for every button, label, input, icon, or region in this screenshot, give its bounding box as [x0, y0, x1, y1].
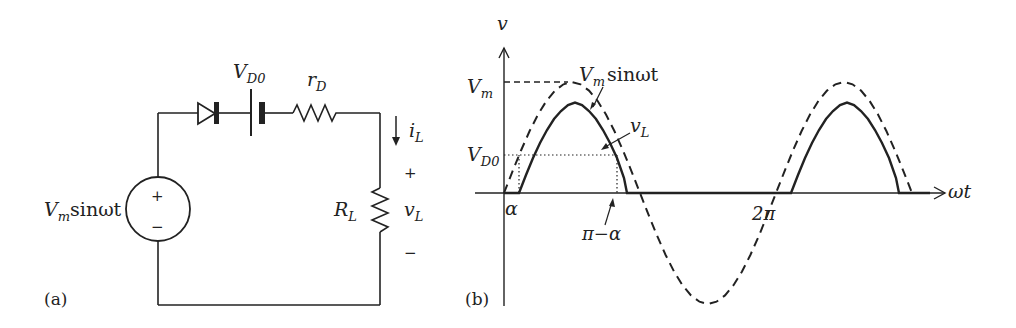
battery-icon — [251, 89, 265, 136]
resistor-rl-icon — [372, 188, 388, 232]
tick-pi-minus-alpha: π−α — [581, 223, 621, 244]
source-label: Vmsinωt — [44, 198, 122, 224]
rl-label: RL — [333, 198, 357, 224]
vl-curve — [504, 103, 930, 194]
waveform-plot: v ωt Vm VD0 Vmsinωt vL α π−α 2π (b) — [465, 12, 971, 309]
vl-plus: + — [404, 164, 417, 182]
source-plus: + — [151, 187, 164, 205]
vm-label: Vm — [467, 75, 493, 101]
vl-pointer-arrow-icon — [601, 143, 609, 150]
current-label: iL — [409, 119, 424, 145]
diode-icon — [198, 102, 219, 124]
panel-a-label: (a) — [44, 289, 67, 309]
panel-b-label: (b) — [465, 289, 489, 309]
pi-minus-alpha-pointer-arrow-icon — [609, 198, 615, 207]
battery-label: VD0 — [233, 60, 265, 86]
rd-label: rD — [307, 68, 327, 94]
tick-alpha: α — [505, 197, 518, 219]
y-axis-label: v — [497, 12, 508, 34]
current-arrow-icon — [392, 116, 400, 146]
tick-2pi: 2π — [751, 203, 776, 224]
vl-label: vL — [404, 198, 423, 224]
figure-canvas: + − Vmsinωt VD0 rD iL + vL − RL — [0, 0, 1016, 328]
source-minus: − — [151, 218, 164, 236]
vd0-label: VD0 — [467, 143, 499, 169]
resistor-rd-icon — [293, 105, 340, 121]
circuit-diagram: + − Vmsinωt VD0 rD iL + vL − RL — [44, 60, 424, 309]
x-axis-label: ωt — [948, 180, 971, 202]
vm-sin-curve-label: Vmsinωt — [579, 63, 659, 89]
vl-minus: − — [404, 244, 417, 262]
vl-curve-label: vL — [630, 114, 649, 140]
